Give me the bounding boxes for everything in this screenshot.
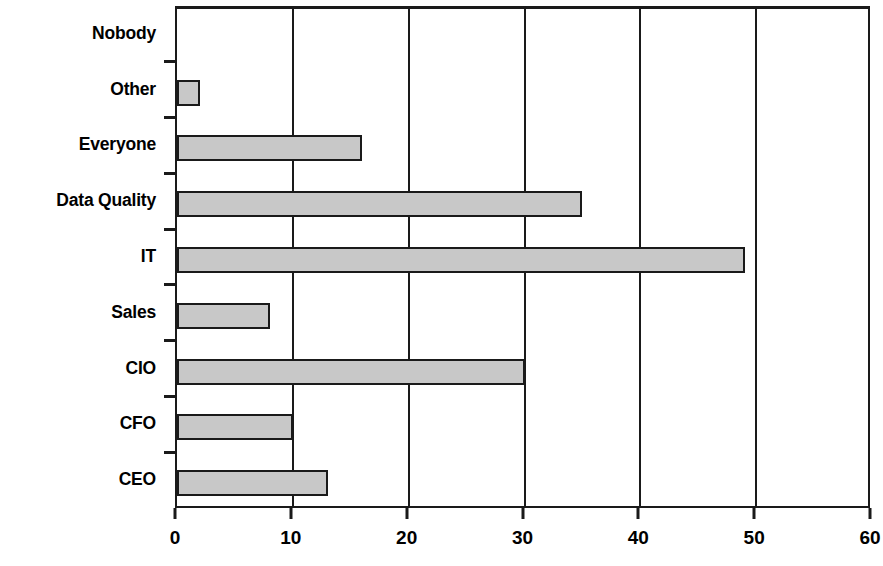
x-tick-label-20: 20 [377, 528, 437, 547]
x-tick-20 [405, 508, 408, 519]
x-axis: 0102030405060 [175, 508, 870, 566]
bar-cio [177, 359, 525, 385]
x-tick-label-0: 0 [145, 528, 205, 547]
y-tick-6 [164, 395, 175, 398]
bar-it [177, 247, 745, 273]
x-tick-30 [521, 508, 524, 519]
bar-everyone [177, 135, 362, 161]
bar-chart: NobodyOtherEveryoneData QualityITSalesCI… [0, 0, 883, 566]
x-tick-label-30: 30 [493, 528, 553, 547]
y-tick-2 [164, 172, 175, 175]
y-tick-1 [164, 116, 175, 119]
x-tick-0 [174, 508, 177, 519]
y-tick-7 [164, 451, 175, 454]
y-tick-4 [164, 283, 175, 286]
bars-layer [177, 9, 868, 506]
y-tick-0 [164, 60, 175, 63]
x-tick-label-50: 50 [724, 528, 784, 547]
y-tick-3 [164, 228, 175, 231]
x-tick-label-40: 40 [608, 528, 668, 547]
bar-cfo [177, 414, 293, 440]
bar-data-quality [177, 191, 582, 217]
bar-ceo [177, 470, 328, 496]
x-tick-10 [289, 508, 292, 519]
x-tick-50 [753, 508, 756, 519]
bar-sales [177, 303, 270, 329]
x-tick-40 [637, 508, 640, 519]
bar-other [177, 80, 200, 106]
y-tick-5 [164, 339, 175, 342]
y-axis-tick-marks [0, 6, 175, 508]
x-tick-label-10: 10 [261, 528, 321, 547]
plot-area [175, 6, 870, 508]
x-tick-60 [869, 508, 872, 519]
x-tick-label-60: 60 [840, 528, 883, 547]
